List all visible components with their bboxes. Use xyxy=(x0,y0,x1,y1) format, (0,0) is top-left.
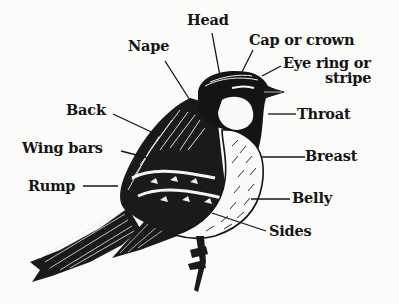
label-wing-bars: Wing bars xyxy=(22,140,103,155)
label-rump: Rump xyxy=(28,178,75,193)
label-throat: Throat xyxy=(297,106,351,121)
label-eye-ring-line2: stripe xyxy=(283,70,371,85)
label-breast: Breast xyxy=(305,148,357,163)
label-cap-or-crown: Cap or crown xyxy=(249,32,354,47)
label-eye-ring-or-stripe: Eye ring or stripe xyxy=(283,55,371,85)
bird-anatomy-diagram: Head Nape Cap or crown Eye ring or strip… xyxy=(0,0,399,304)
label-nape: Nape xyxy=(128,38,169,53)
label-belly: Belly xyxy=(292,190,332,205)
feet-perch xyxy=(188,236,208,292)
label-head: Head xyxy=(187,12,229,27)
label-back: Back xyxy=(66,102,106,117)
label-sides: Sides xyxy=(269,223,312,238)
